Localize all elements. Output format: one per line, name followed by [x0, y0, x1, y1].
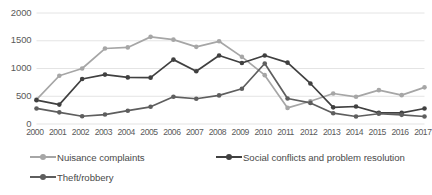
y-axis-tick-label: 1500 [2, 35, 32, 45]
x-axis-tick-label: 2015 [369, 128, 386, 137]
x-axis-tick-label: 2011 [277, 128, 294, 137]
data-point [308, 101, 313, 106]
x-axis-tick-label: 2000 [26, 128, 43, 137]
data-point [57, 102, 62, 107]
x-axis-tick-label: 2002 [72, 128, 89, 137]
data-point [125, 45, 130, 50]
data-point [422, 114, 427, 119]
data-point [262, 61, 267, 66]
x-axis-tick-label: 2016 [391, 128, 408, 137]
x-axis-tick-label: 2014 [346, 128, 363, 137]
gridlines [37, 13, 425, 124]
data-point [171, 37, 176, 42]
x-axis-tick-label: 2012 [300, 128, 317, 137]
legend-item[interactable]: Nuisance complaints [30, 150, 145, 164]
data-point [331, 91, 336, 96]
data-point [103, 112, 108, 117]
series-lines [37, 37, 425, 117]
data-point [80, 114, 85, 119]
series-line-0 [37, 37, 425, 108]
data-point [354, 95, 359, 100]
x-axis-tick-label: 2006 [163, 128, 180, 137]
x-axis-tick-label: 2004 [117, 128, 134, 137]
legend-line-marker-icon [30, 171, 56, 183]
x-axis-tick-label: 2017 [414, 128, 431, 137]
data-point [125, 108, 130, 113]
data-point [80, 66, 85, 71]
data-point [80, 77, 85, 82]
data-point [240, 61, 245, 66]
data-point [354, 114, 359, 119]
legend-label: Social conflicts and problem resolution [243, 152, 405, 163]
data-point [148, 75, 153, 80]
data-point [34, 106, 39, 111]
legend-item[interactable]: Theft/robbery [30, 170, 113, 184]
data-point [331, 105, 336, 110]
chart-legend: Nuisance complaintsSocial conflicts and … [0, 148, 431, 195]
x-axis-tick-label: 2008 [209, 128, 226, 137]
data-point [422, 85, 427, 90]
x-axis-tick-label: 2010 [254, 128, 271, 137]
legend-line-marker-icon [30, 151, 56, 163]
x-axis-tick-label: 2005 [140, 128, 157, 137]
data-point [377, 111, 382, 116]
legend-label: Nuisance complaints [57, 152, 145, 163]
data-point [262, 73, 267, 78]
y-axis-tick-label: 500 [2, 91, 32, 101]
data-point [103, 72, 108, 77]
data-point [148, 35, 153, 40]
y-axis-tick-label: 2000 [2, 8, 32, 18]
data-point [399, 113, 404, 118]
legend-point-marker [40, 154, 46, 160]
data-point [422, 106, 427, 111]
y-axis-tick-label: 1000 [2, 63, 32, 73]
data-point [399, 93, 404, 98]
x-axis-tick-label: 2009 [232, 128, 249, 137]
legend-item[interactable]: Social conflicts and problem resolution [216, 150, 405, 164]
data-point [103, 46, 108, 51]
legend-point-marker [40, 174, 46, 180]
data-point [171, 57, 176, 62]
data-point [240, 86, 245, 91]
data-point [262, 53, 267, 58]
legend-line-marker-icon [216, 151, 242, 163]
data-point [285, 96, 290, 101]
data-point [377, 88, 382, 93]
data-point [285, 106, 290, 111]
data-point [57, 110, 62, 115]
data-point [285, 60, 290, 65]
data-point [194, 69, 199, 74]
data-point [171, 95, 176, 100]
data-point [240, 55, 245, 60]
series-line-1 [37, 55, 425, 112]
data-point [148, 105, 153, 110]
data-point [34, 98, 39, 103]
data-point [57, 73, 62, 78]
x-axis-tick-label: 2013 [323, 128, 340, 137]
data-point [217, 53, 222, 58]
x-axis-tick-label: 2001 [49, 128, 66, 137]
data-point [194, 45, 199, 50]
data-point [308, 81, 313, 86]
x-axis-tick-label: 2007 [186, 128, 203, 137]
data-point [331, 111, 336, 116]
data-point [125, 75, 130, 80]
data-point [217, 39, 222, 44]
legend-label: Theft/robbery [57, 172, 113, 183]
legend-point-marker [226, 154, 232, 160]
data-point [194, 96, 199, 101]
data-point [354, 104, 359, 109]
data-point [217, 93, 222, 98]
x-axis-tick-label: 2003 [95, 128, 112, 137]
